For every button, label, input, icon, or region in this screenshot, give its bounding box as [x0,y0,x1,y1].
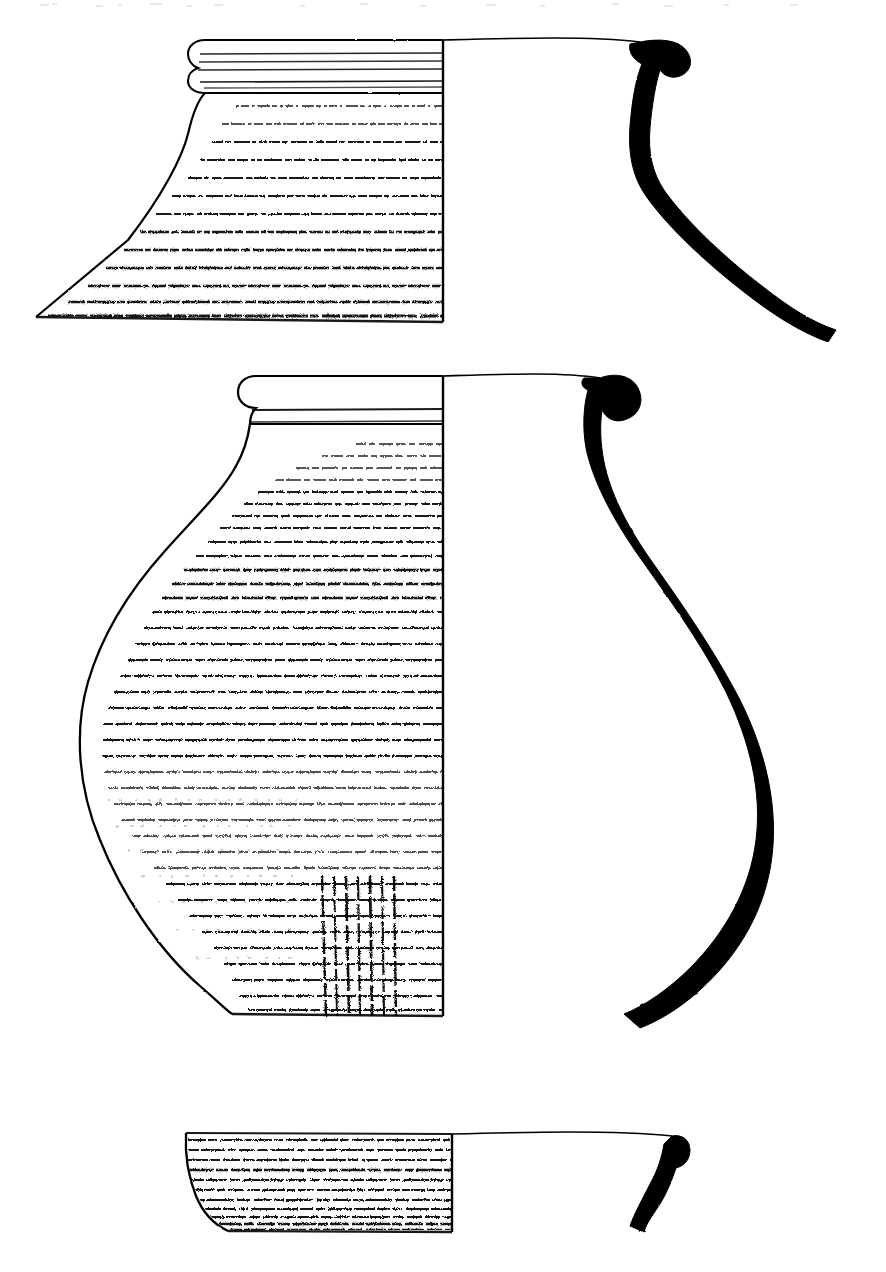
pottery-plate [0,0,886,1272]
figure-3-base-line [228,1231,452,1232]
figure-3-break-edge [186,1133,452,1134]
pottery-plate-svg [0,0,886,1272]
